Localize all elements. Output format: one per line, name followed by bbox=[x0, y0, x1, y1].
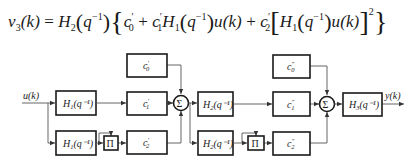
output-label: y(k) bbox=[384, 90, 401, 102]
block-H2-bottom: H2(q⁻¹) bbox=[198, 131, 234, 155]
svg-text:H1(q⁻¹): H1(q⁻¹) bbox=[62, 98, 94, 110]
coef-c2-double-prime: c″2 bbox=[273, 132, 310, 155]
svg-text:Σ: Σ bbox=[323, 99, 329, 110]
svg-text:Σ: Σ bbox=[177, 98, 183, 109]
svg-text:H3(q⁻¹): H3(q⁻¹) bbox=[348, 99, 380, 111]
interstage-wires bbox=[189, 103, 198, 143]
svg-text:Π: Π bbox=[252, 138, 259, 149]
block-diagram: u(k) H1(q⁻¹) H1(q⁻¹) Π c′0 c′1 c′2 bbox=[0, 0, 414, 165]
product-block-1: Π bbox=[104, 136, 118, 150]
block-H3: H3(q⁻¹) bbox=[343, 93, 382, 116]
coef-c0-prime: c′0 bbox=[127, 54, 167, 77]
svg-text:H2(q⁻¹): H2(q⁻¹) bbox=[202, 138, 234, 150]
svg-text:c′1: c′1 bbox=[143, 97, 149, 110]
input-label: u(k) bbox=[23, 90, 40, 102]
product-block-2: Π bbox=[248, 136, 264, 150]
svg-text:c′2: c′2 bbox=[143, 136, 150, 149]
summing-junction-1: Σ bbox=[174, 96, 189, 111]
svg-text:c″1: c″1 bbox=[287, 98, 294, 111]
svg-text:H2(q⁻¹): H2(q⁻¹) bbox=[202, 99, 234, 111]
coef-c0-double-prime: c″0 bbox=[273, 55, 310, 78]
coef-c1-prime: c′1 bbox=[127, 92, 167, 115]
svg-text:c″0: c″0 bbox=[287, 60, 295, 73]
input-wires bbox=[22, 103, 55, 143]
block-H2-top: H2(q⁻¹) bbox=[198, 92, 234, 116]
coef-c2-prime: c′2 bbox=[127, 131, 167, 154]
svg-text:Π: Π bbox=[107, 138, 114, 149]
svg-text:c″2: c″2 bbox=[287, 137, 295, 150]
block-H1-top: H1(q⁻¹) bbox=[56, 91, 96, 115]
block-H1-bottom: H1(q⁻¹) bbox=[56, 131, 96, 155]
summing-junction-2: Σ bbox=[320, 97, 335, 112]
coef-c1-double-prime: c″1 bbox=[273, 92, 310, 116]
svg-text:c′0: c′0 bbox=[143, 59, 150, 72]
svg-text:H1(q⁻¹): H1(q⁻¹) bbox=[62, 138, 94, 150]
